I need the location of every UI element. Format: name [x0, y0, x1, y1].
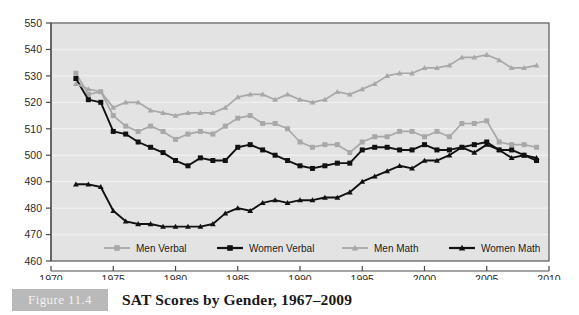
legend-label: Men Math	[374, 243, 418, 254]
x-axis-tick-label: 1980	[164, 273, 188, 280]
x-axis: 197019751980198519901995200020052010	[39, 266, 561, 280]
y-axis-tick-label: 470	[24, 228, 42, 240]
x-axis-tick-label: 2000	[413, 273, 437, 280]
y-axis-tick-label: 510	[24, 123, 42, 135]
y-axis-tick-label: 530	[24, 70, 42, 82]
legend-label: Women Math	[481, 243, 540, 254]
y-axis-tick-label: 550	[24, 17, 42, 29]
y-axis: 460470480490500510520530540550	[24, 17, 51, 267]
chart-canvas: 460470480490500510520530540550 197019751…	[0, 0, 579, 280]
figure-number-badge: Figure 11.4	[12, 289, 108, 311]
x-axis-tick-label: 1990	[288, 273, 312, 280]
y-axis-tick-label: 540	[24, 43, 42, 55]
y-axis-tick-label: 500	[24, 149, 42, 161]
y-axis-tick-label: 520	[24, 96, 42, 108]
legend-label: Women Verbal	[249, 243, 314, 254]
sat-scores-line-chart: 460470480490500510520530540550 197019751…	[0, 0, 579, 280]
figure-caption-title: SAT Scores by Gender, 1967–2009	[122, 291, 352, 309]
x-axis-tick-label: 2010	[537, 273, 561, 280]
x-axis-tick-label: 1975	[102, 273, 126, 280]
y-axis-tick-label: 460	[24, 255, 42, 267]
y-axis-tick-label: 490	[24, 175, 42, 187]
legend-label: Men Verbal	[136, 243, 187, 254]
x-axis-tick-label: 1985	[226, 273, 250, 280]
figure-container: 460470480490500510520530540550 197019751…	[0, 0, 579, 315]
x-axis-tick-label: 2005	[475, 273, 499, 280]
x-axis-tick-label: 1995	[351, 273, 375, 280]
figure-caption: Figure 11.4 SAT Scores by Gender, 1967–2…	[0, 284, 579, 315]
y-axis-tick-label: 480	[24, 202, 42, 214]
x-axis-tick-label: 1970	[39, 273, 63, 280]
